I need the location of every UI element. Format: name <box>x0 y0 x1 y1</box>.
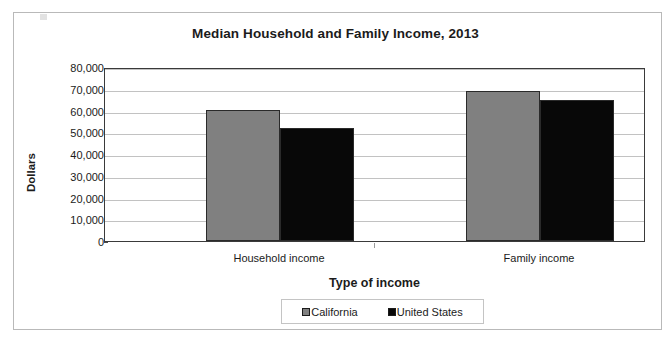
gray-swatch-icon <box>302 308 310 316</box>
y-axis-tick-label: 50,000 <box>46 127 104 139</box>
black-swatch-icon <box>388 308 396 316</box>
x-axis-tick-mark <box>374 243 375 248</box>
y-axis-tick-label: 0 <box>46 236 104 248</box>
bar-united-states-family-income <box>540 100 614 241</box>
bar-california-family-income <box>466 91 540 241</box>
image-artifact-speck <box>40 14 47 20</box>
y-axis-tick-label: 30,000 <box>46 171 104 183</box>
x-axis-title: Type of income <box>104 276 645 290</box>
bar-california-household-income <box>206 110 280 241</box>
y-axis-tick-label: 80,000 <box>46 62 104 74</box>
y-axis-tick-label: 60,000 <box>46 106 104 118</box>
y-axis-tick-mark <box>104 242 108 243</box>
y-axis-tick-label: 40,000 <box>46 149 104 161</box>
x-axis-category-label: Family income <box>459 252 619 264</box>
legend-item-california[interactable]: California <box>302 306 357 318</box>
y-axis-tick-group: 80,00070,00060,00050,00040,00030,00020,0… <box>40 68 104 242</box>
legend-item-united-states[interactable]: United States <box>388 306 463 318</box>
plot-area <box>104 68 645 242</box>
y-axis-tick-label: 10,000 <box>46 214 104 226</box>
x-axis-category-label: Household income <box>199 252 359 264</box>
legend-label-california: California <box>311 306 357 318</box>
chart-title: Median Household and Family Income, 2013 <box>0 26 671 41</box>
y-axis-tick-label: 70,000 <box>46 84 104 96</box>
legend-label-united-states: United States <box>397 306 463 318</box>
y-axis-tick-label: 20,000 <box>46 193 104 205</box>
legend: California United States <box>281 299 484 324</box>
y-axis-title: Dollars <box>21 128 41 218</box>
gridline <box>105 69 644 70</box>
bar-united-states-household-income <box>280 128 354 241</box>
gridline <box>105 91 644 92</box>
